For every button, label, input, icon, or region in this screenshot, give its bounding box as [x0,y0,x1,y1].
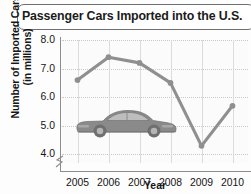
data-series-line [62,40,248,163]
chart-title: Passenger Cars Imported into the U.S. [22,8,251,24]
y-axis-title-line1: Number of Imported Cars [9,0,22,119]
y-axis-line [60,37,61,171]
y-tick-label: 5.0 [22,121,55,131]
data-point-marker [106,54,112,60]
plot-area: 8.07.06.05.04.0 200520062007200820092010 [62,40,248,163]
x-axis-line [60,171,251,172]
y-tick-label: 6.0 [22,92,55,102]
data-point-marker [230,103,236,109]
y-tick-label: 4.0 [22,149,55,159]
data-point-marker [199,143,205,149]
series-polyline [78,57,233,146]
data-point-marker [75,77,81,83]
data-point-marker [137,60,143,66]
y-tick-label: 8.0 [22,35,55,45]
y-tick-label: 7.0 [22,64,55,74]
chart-page: Passenger Cars Imported into the U.S. Nu… [0,0,251,194]
x-axis-title: Year [62,180,248,191]
data-point-marker [168,80,174,86]
